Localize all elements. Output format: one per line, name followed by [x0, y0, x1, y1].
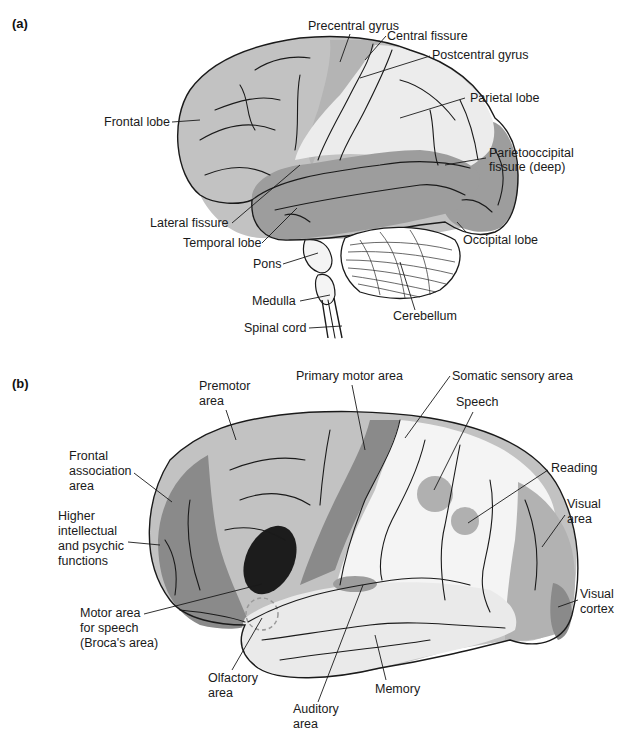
label-frontal-assoc-2: association [69, 464, 132, 478]
label-frontal-lobe: Frontal lobe [104, 115, 170, 129]
label-visual-area-2: area [567, 512, 592, 526]
label-higher-1: Higher [58, 509, 95, 523]
label-parietooccipital-1: Parietooccipital [489, 146, 574, 160]
label-premotor-1: Premotor [199, 379, 250, 393]
label-broca-1: Motor area [80, 606, 140, 620]
label-premotor-2: area [199, 394, 224, 408]
panel-a-tag: (a) [12, 16, 28, 31]
label-broca-2: for speech [80, 621, 138, 635]
brain-figure: (a) [0, 0, 631, 742]
label-primary-motor: Primary motor area [296, 369, 403, 383]
label-visual-area-1: Visual [567, 497, 601, 511]
label-visual-cortex-1: Visual [580, 587, 614, 601]
panel-b: (b) [12, 369, 615, 731]
label-spinal-cord: Spinal cord [244, 321, 307, 335]
label-memory: Memory [375, 682, 421, 696]
speech-area-circle [417, 476, 453, 512]
panel-a: (a) [12, 16, 574, 338]
label-broca-3: (Broca's area) [80, 636, 158, 650]
label-frontal-assoc-1: Frontal [69, 449, 108, 463]
label-olfactory-2: area [208, 686, 233, 700]
label-postcentral-gyrus: Postcentral gyrus [432, 48, 529, 62]
label-auditory-2: area [293, 717, 318, 731]
label-somatic-sensory: Somatic sensory area [452, 369, 573, 383]
label-higher-4: functions [58, 554, 108, 568]
label-pons: Pons [253, 257, 282, 271]
label-higher-2: intellectual [58, 524, 117, 538]
spinal-cord-line [322, 300, 328, 338]
panel-b-tag: (b) [12, 376, 29, 391]
label-olfactory-1: Olfactory [208, 671, 259, 685]
label-lateral-fissure: Lateral fissure [150, 216, 229, 230]
label-temporal-lobe: Temporal lobe [183, 236, 262, 250]
label-parietal-lobe: Parietal lobe [470, 91, 540, 105]
label-visual-cortex-2: cortex [580, 602, 615, 616]
label-medulla: Medulla [252, 294, 296, 308]
label-auditory-1: Auditory [293, 702, 340, 716]
label-parietooccipital-2: fissure (deep) [489, 160, 565, 174]
label-precentral-gyrus: Precentral gyrus [308, 19, 399, 33]
reading-area-circle [451, 507, 479, 535]
label-reading: Reading [551, 461, 598, 475]
label-frontal-assoc-3: area [69, 479, 94, 493]
medulla-region [316, 274, 335, 304]
label-speech: Speech [456, 395, 498, 409]
label-central-fissure: Central fissure [387, 29, 468, 43]
label-higher-3: and psychic [58, 539, 124, 553]
label-occipital-lobe: Occipital lobe [463, 233, 538, 247]
label-cerebellum: Cerebellum [393, 309, 457, 323]
